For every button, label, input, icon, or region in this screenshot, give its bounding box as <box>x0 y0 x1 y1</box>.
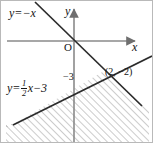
label-line-y-equals-negative-x: y=−x <box>9 7 36 19</box>
equation-prefix: y= <box>7 82 20 94</box>
intersection-point-label: (2, −2) <box>105 67 132 77</box>
label-line-y-equals-half-x-minus-3: y= 1 2 x−3 <box>7 79 47 97</box>
equation-suffix: x−3 <box>28 82 47 94</box>
y-intercept-label: −3 <box>63 72 74 82</box>
math-figure: y=−x y x O (2, −2) −3 y= 1 2 x−3 <box>0 0 153 143</box>
axis-label-y: y <box>65 5 70 17</box>
fraction-numerator: 1 <box>21 79 27 88</box>
origin-label: O <box>64 42 72 53</box>
axis-label-x: x <box>132 41 137 53</box>
fraction-denominator: 2 <box>21 89 27 98</box>
fraction-one-half: 1 2 <box>21 79 27 97</box>
